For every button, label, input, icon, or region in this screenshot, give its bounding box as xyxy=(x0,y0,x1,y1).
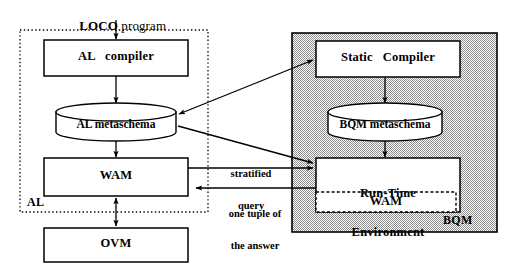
loco-program-plain: program xyxy=(118,18,166,33)
one-tuple-line1: one tuple of xyxy=(196,209,314,220)
runtime-environment-label-line2: Environment xyxy=(316,226,460,239)
al-compiler-label: AL compiler xyxy=(44,50,188,63)
bqm-metaschema-label: BQM metaschema xyxy=(326,118,444,130)
one-tuple-label: one tuple of the answer xyxy=(196,188,314,272)
architecture-diagram: LOCO program AL compiler AL metaschema W… xyxy=(0,0,509,274)
loco-program-label: LOCO program xyxy=(0,5,232,46)
static-compiler-label: Static Compiler xyxy=(316,51,460,64)
ovm-label: OVM xyxy=(44,237,188,250)
runtime-environment-label: Run-Time Environment xyxy=(316,161,460,265)
wam-bqm-label: WAM xyxy=(316,195,456,208)
stratified-query-line1: stratified xyxy=(196,169,306,180)
one-tuple-line2: the answer xyxy=(196,241,314,252)
al-metaschema-label: AL metaschema xyxy=(56,118,176,130)
loco-program-bold: LOCO xyxy=(79,18,118,33)
al-region-label: AL xyxy=(27,196,44,209)
wam-al-label: WAM xyxy=(44,169,188,182)
bqm-region-label: BQM xyxy=(443,214,473,227)
